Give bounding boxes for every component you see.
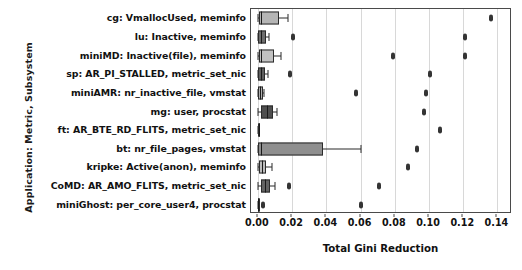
y-tick-label: sp: AR_PI_STALLED, metric_set_nic (14, 68, 246, 79)
cap-high (268, 70, 269, 78)
cap-low (257, 14, 258, 22)
gridline (395, 9, 396, 212)
gridline (361, 9, 362, 212)
median-line (261, 12, 262, 25)
outlier-marker (291, 33, 295, 40)
cap-high (274, 182, 275, 190)
median-line (261, 68, 262, 81)
cap-high (271, 163, 272, 171)
outlier-marker (463, 52, 467, 59)
x-tick-label: 0.10 (416, 217, 440, 228)
plot-area (250, 8, 511, 213)
outlier-marker (391, 52, 395, 59)
median-line (267, 105, 268, 118)
outlier-marker (406, 164, 410, 171)
y-tick-label: ft: AR_BTE_RD_FLITS, metric_set_nic (14, 124, 246, 135)
median-line (258, 198, 259, 211)
whisker-high (323, 148, 360, 149)
median-line (259, 124, 260, 137)
cap-high (360, 145, 361, 153)
median-line (265, 180, 266, 193)
outlier-marker (489, 15, 493, 22)
y-tick-label: CoMD: AR_AMO_FLITS, metric_set_nic (14, 180, 246, 191)
cap-high (269, 33, 270, 41)
y-tick-label: bt: nr_file_pages, vmstat (14, 142, 246, 153)
gridline (497, 9, 498, 212)
outlier-marker (354, 89, 358, 96)
y-tick-label: miniAMR: nr_inactive_file, vmstat (14, 86, 246, 97)
y-tick-label: miniGhost: per_core_user4, procstat (14, 198, 246, 209)
median-line (261, 30, 262, 43)
y-tick-label: cg: VmallocUsed, meminfo (14, 12, 246, 23)
x-tick-label: 0.06 (348, 217, 372, 228)
cap-low (257, 107, 258, 115)
cap-high (264, 89, 265, 97)
y-tick-label: mg: user, procstat (14, 105, 246, 116)
outlier-marker (359, 201, 363, 208)
x-axis-label: Total Gini Reduction (250, 243, 511, 254)
x-tick-label: 0.00 (245, 217, 269, 228)
gridline (326, 9, 327, 212)
cap-high (277, 107, 278, 115)
x-tick-label: 0.08 (382, 217, 406, 228)
outlier-marker (261, 201, 265, 208)
median-line (261, 142, 262, 155)
outlier-marker (428, 71, 432, 78)
outlier-marker (424, 89, 428, 96)
y-axis-tick-labels: cg: VmallocUsed, meminfolu: Inactive, me… (14, 8, 246, 213)
cap-high (281, 52, 282, 60)
box (259, 12, 278, 25)
figure: Application: Metric, Subsystem cg: Vmall… (0, 0, 522, 270)
outlier-marker (377, 183, 381, 190)
x-axis-ticks: 0.000.020.040.060.080.100.120.14 (250, 214, 511, 228)
outlier-marker (438, 127, 442, 134)
x-tick-label: 0.04 (313, 217, 337, 228)
gridline (429, 9, 430, 212)
x-tick-label: 0.12 (450, 217, 474, 228)
outlier-marker (422, 108, 426, 115)
median-line (261, 49, 262, 62)
cap-high (287, 14, 288, 22)
y-tick-label: lu: Inactive, meminfo (14, 30, 246, 41)
x-tick-label: 0.14 (485, 217, 509, 228)
y-tick-label: miniMD: Inactive(file), meminfo (14, 49, 246, 60)
median-line (260, 86, 261, 99)
outlier-marker (463, 33, 467, 40)
x-tick-label: 0.02 (279, 217, 303, 228)
outlier-marker (287, 183, 291, 190)
cap-low (257, 182, 258, 190)
outlier-marker (415, 145, 419, 152)
box (258, 142, 323, 155)
y-tick-label: kripke: Active(anon), meminfo (14, 161, 246, 172)
median-line (262, 161, 263, 174)
outlier-marker (288, 71, 292, 78)
